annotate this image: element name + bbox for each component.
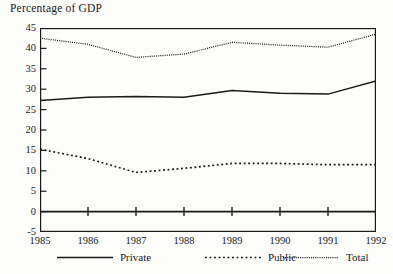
x-tick-label: 1986	[78, 236, 99, 247]
axis-ticks	[41, 48, 328, 216]
x-tick-label: 1990	[270, 236, 291, 247]
y-tick-label: 45	[10, 23, 36, 34]
x-tick-label: 1985	[30, 236, 51, 247]
y-tick-label: 30	[10, 84, 36, 95]
legend-label: Total	[346, 252, 368, 263]
x-tick-label: 1991	[318, 236, 339, 247]
plot-area	[40, 28, 376, 232]
x-tick-label: 1989	[222, 236, 243, 247]
y-tick-label: 5	[10, 186, 36, 197]
y-tick-label: 25	[10, 104, 36, 115]
legend-swatch-dotted	[205, 253, 261, 262]
chart-legend: PrivatePublicTotal	[0, 252, 393, 272]
plot-border	[41, 29, 376, 232]
chart-title-text: Percentage of GDP	[10, 2, 102, 14]
legend-item-total[interactable]: Total	[283, 252, 368, 263]
y-tick-label: 15	[10, 145, 36, 156]
data-series-group	[40, 34, 376, 172]
series-line-total	[40, 34, 376, 57]
y-axis-labels: -5051015202530354045	[8, 28, 36, 232]
series-line-private	[40, 81, 376, 101]
legend-swatch-fine-dotted	[283, 253, 339, 262]
legend-label: Private	[120, 252, 151, 263]
chart-container: Percentage of GDP -5051015202530354045 1…	[0, 0, 393, 274]
plot-frame	[41, 29, 376, 232]
plot-svg	[40, 28, 376, 232]
x-tick-label: 1987	[126, 236, 147, 247]
x-axis-labels: 19851986198719881989199019911992	[40, 236, 376, 252]
x-tick-label: 1992	[366, 236, 387, 247]
legend-swatch-solid	[57, 253, 113, 262]
chart-title: Percentage of GDP	[10, 2, 102, 14]
y-tick-label: 20	[10, 125, 36, 136]
x-tick-label: 1988	[174, 236, 195, 247]
legend-item-private[interactable]: Private	[57, 252, 151, 263]
y-tick-label: 10	[10, 166, 36, 177]
y-tick-label: 35	[10, 64, 36, 75]
y-tick-label: 40	[10, 43, 36, 54]
y-tick-label: 0	[10, 206, 36, 217]
series-line-public	[40, 149, 376, 172]
